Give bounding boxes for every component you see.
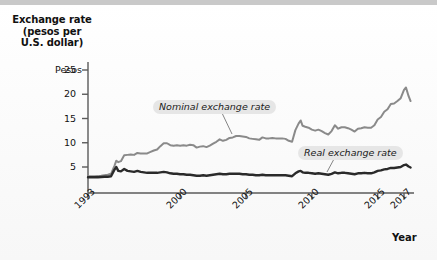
y-axis-tick-label: 20 — [50, 88, 76, 99]
chart-plot-area — [0, 0, 437, 260]
x-axis-title: Year — [392, 232, 417, 243]
annotation-real-exchange-rate: Real exchange rate — [298, 146, 403, 160]
annotation-nominal-exchange-rate: Nominal exchange rate — [153, 100, 276, 114]
y-axis-tick-label: 25 — [50, 64, 76, 75]
figure-container: Exchange rate (pesos per U.S. dollar) Pe… — [0, 0, 437, 260]
y-axis-tick-label: 5 — [50, 161, 76, 172]
series-line-real-exchange-rate — [88, 165, 411, 178]
y-axis-tick-label: 15 — [50, 113, 76, 124]
leader-line-nominal — [222, 113, 232, 134]
leader-line-real — [327, 159, 334, 172]
y-axis-tick-label: 10 — [50, 137, 76, 148]
